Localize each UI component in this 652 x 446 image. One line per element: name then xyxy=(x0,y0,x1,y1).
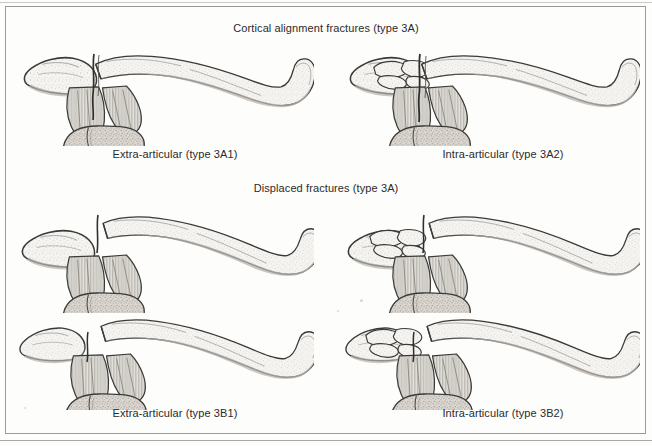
clavicle-diagram-3b2 xyxy=(340,310,640,410)
clavicle-diagram-3a1 xyxy=(14,38,314,146)
fracture-gap-3b1 xyxy=(87,332,88,362)
clavicle-diagram-3b1-upper xyxy=(14,205,314,313)
caption-panel-3a2: Intra-articular (type 3A2) xyxy=(442,148,563,161)
page-rule-top xyxy=(0,2,652,3)
clavicle-diagram-3b1 xyxy=(14,310,314,410)
figure-page: Cortical alignment fractures (type 3A) xyxy=(0,0,652,446)
caption-panel-3b2: Intra-articular (type 3B2) xyxy=(442,407,563,420)
illustration-panel-3b2 xyxy=(340,310,640,410)
clavicle-diagram-3b2-upper xyxy=(340,205,640,313)
fracture-line-3a1 xyxy=(93,54,94,120)
caption-panel-3b1: Extra-articular (type 3B1) xyxy=(113,407,238,420)
illustration-panel-3a2 xyxy=(340,38,640,146)
comminution-fragments-3b2-upper xyxy=(370,229,426,258)
illustration-panel-3a1 xyxy=(14,38,314,146)
illustration-panel-3b1 xyxy=(14,310,314,410)
fracture-gap-3b1-upper xyxy=(97,215,98,253)
heading-cortical-alignment: Cortical alignment fractures (type 3A) xyxy=(233,22,418,35)
clavicle-diagram-3a2 xyxy=(340,38,640,146)
illustration-panel-3b1-upper xyxy=(14,205,314,313)
heading-displaced-fractures: Displaced fractures (type 3A) xyxy=(254,182,399,195)
fracture-line-3a2 xyxy=(419,54,420,122)
caption-panel-3a1: Extra-articular (type 3A1) xyxy=(113,148,238,161)
fracture-gap-3b2-upper xyxy=(423,215,424,253)
illustration-panel-3b2-upper xyxy=(340,205,640,313)
fracture-gap-3b2 xyxy=(413,332,414,362)
scan-speck xyxy=(337,310,339,312)
page-rule-bottom xyxy=(0,440,652,441)
